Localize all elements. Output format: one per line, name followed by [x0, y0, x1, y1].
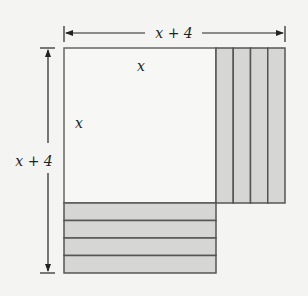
right-strips	[216, 48, 285, 203]
inner-left-label: x	[75, 115, 83, 131]
left-dimension-label: x + 4	[15, 153, 52, 169]
area-model-diagram: x + 4 x + 4 x x	[0, 0, 308, 296]
top-dimension-label: x + 4	[155, 25, 192, 41]
inner-top-label: x	[137, 58, 145, 74]
bottom-strips	[64, 203, 216, 273]
